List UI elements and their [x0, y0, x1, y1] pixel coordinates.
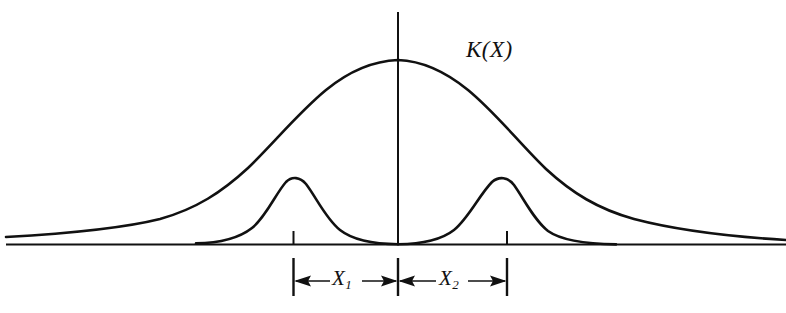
- dimension-label-x2-base: X: [439, 266, 452, 290]
- dimension-label-x1: X1: [332, 268, 352, 291]
- curve-label-kx: K(X): [466, 38, 513, 61]
- density-curve-diagram: [0, 0, 786, 313]
- dimension-label-x2-subscript: 2: [452, 277, 459, 292]
- dimension-label-x1-base: X: [332, 266, 345, 290]
- curve-label-kx-text: K(X): [466, 37, 513, 62]
- dimension-label-x1-subscript: 1: [345, 277, 352, 292]
- figure-background: [0, 0, 786, 313]
- figure-container: K(X) X1 X2: [0, 0, 786, 313]
- dimension-label-x2: X2: [439, 268, 459, 291]
